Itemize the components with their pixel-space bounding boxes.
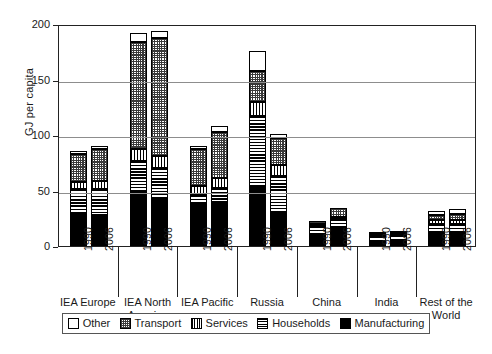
x-group-label-russia: Russia [237,296,297,309]
y-tick-label-100: 100 [18,130,50,141]
legend-item-services: Services [191,318,248,329]
segment-households [130,161,147,192]
group-separator [416,247,417,297]
x-year-label-2006: 2006 [341,227,353,251]
segment-transport [70,154,87,182]
y-tick-mark-0 [53,247,58,248]
segment-services [151,156,168,168]
segment-services [130,149,147,160]
legend-swatch-households [257,318,268,329]
x-year-label-2006: 2006 [162,227,174,251]
x-year-label-1990: 1990 [440,227,452,251]
group-separator [357,247,358,297]
y-tick-label-0: 0 [18,241,50,252]
gridline-100 [59,137,475,138]
legend-swatch-transport [120,318,131,329]
segment-services [190,186,207,195]
segment-services [249,102,266,116]
bar-iea-north-america-1990 [130,33,147,246]
x-year-label-2006: 2006 [282,227,294,251]
x-year-label-1990: 1990 [141,227,153,251]
segment-transport [249,71,266,102]
segment-households [190,195,207,205]
x-year-label-2006: 2006 [103,227,115,251]
gridline-50 [59,193,475,194]
segment-transport [330,208,347,217]
y-tick-label-200: 200 [18,19,50,30]
segment-services [270,165,287,176]
segment-services [70,182,87,190]
legend-swatch-manufacturing [340,318,351,329]
segment-transport [211,132,228,179]
x-group-label-iea-europe: IEA Europe [58,296,118,309]
segment-services [211,178,228,188]
y-tick-mark-100 [53,136,58,137]
bar-iea-north-america-2006 [151,31,168,246]
legend-swatch-other [68,318,79,329]
segment-households [249,116,266,186]
segment-transport [190,149,207,186]
x-group-label-iea-pacific: IEA Pacific [177,296,237,309]
group-separator [177,247,178,297]
segment-transport [91,149,108,180]
legend-item-manufacturing: Manufacturing [340,318,425,329]
gridline-150 [59,82,475,83]
bar-russia-1990 [249,51,266,246]
x-year-label-2006: 2006 [222,227,234,251]
segment-transport [270,138,287,165]
y-axis-title: GJ per capita [23,37,35,167]
legend-item-other: Other [68,318,111,329]
group-separator [297,247,298,297]
x-year-label-1990: 1990 [261,227,273,251]
chart-legend: Other Transport Services Households Manu… [62,313,430,334]
x-year-label-1990: 1990 [82,227,94,251]
plot-area [58,25,476,247]
x-year-label-1990: 1990 [380,227,392,251]
legend-item-households: Households [257,318,330,329]
legend-label-transport: Transport [135,318,182,329]
legend-label-other: Other [83,318,111,329]
stacked-bar-chart: GJ per capita 050100150200 19902006IEA E… [0,0,492,354]
segment-households [151,168,168,198]
segment-other [151,31,168,39]
segment-households [270,176,287,213]
y-tick-mark-200 [53,25,58,26]
y-tick-label-150: 150 [18,75,50,86]
y-tick-label-50: 50 [18,186,50,197]
segment-transport [130,42,147,150]
x-year-label-2006: 2006 [401,227,413,251]
segment-households [211,188,228,201]
x-group-label-china: China [297,296,357,309]
segment-other [130,33,147,42]
segment-other [249,51,266,71]
bars-layer [59,26,475,246]
x-year-label-1990: 1990 [321,227,333,251]
segment-transport [151,38,168,156]
x-year-label-1990: 1990 [201,227,213,251]
group-separator [118,247,119,297]
legend-label-manufacturing: Manufacturing [355,318,425,329]
group-separator [237,247,238,297]
segment-transport [449,214,466,221]
legend-swatch-services [191,318,202,329]
legend-label-households: Households [272,318,330,329]
x-year-label-2006: 2006 [461,227,473,251]
y-tick-mark-150 [53,81,58,82]
x-group-label-india: India [357,296,417,309]
legend-label-services: Services [206,318,248,329]
y-tick-mark-50 [53,192,58,193]
segment-services [91,181,108,190]
legend-item-transport: Transport [120,318,182,329]
